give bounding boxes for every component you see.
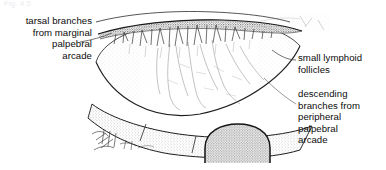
label-tarsal-branches: tarsal branches from marginal palpebral …: [0, 15, 92, 61]
label-descending-branches: descending branches from peripheral palp…: [298, 88, 386, 146]
label-small-lymphoid-follicles: small lymphoid follicles: [298, 52, 386, 75]
figure-caption-partial: Fig. 4.5: [4, 0, 64, 8]
anatomical-figure: Fig. 4.5 tarsal branches from marginal p…: [0, 0, 386, 170]
